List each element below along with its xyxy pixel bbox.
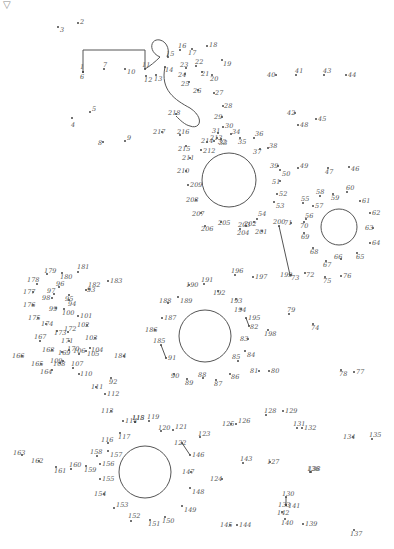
- dot-label: 109: [50, 358, 62, 365]
- dot-label: 160: [69, 462, 81, 469]
- dot-81[interactable]: [258, 370, 260, 372]
- dot-label: 42: [287, 110, 295, 117]
- dot-132[interactable]: [301, 427, 303, 429]
- dot-label: 95: [65, 296, 73, 303]
- dot-77[interactable]: [353, 371, 355, 373]
- dot-45[interactable]: [315, 118, 317, 120]
- dot-49[interactable]: [297, 167, 299, 169]
- dot-label: 153: [116, 502, 128, 509]
- dot-3[interactable]: [57, 26, 59, 28]
- dot-187[interactable]: [161, 317, 163, 319]
- dot-144[interactable]: [236, 524, 238, 526]
- dot-label: 187: [164, 315, 176, 322]
- dot-76[interactable]: [340, 275, 342, 277]
- dot-2[interactable]: [77, 22, 79, 24]
- dot-121[interactable]: [172, 429, 174, 431]
- dot-label: 119: [147, 414, 159, 421]
- dot-label: 88: [198, 372, 206, 379]
- dot-98[interactable]: [51, 297, 53, 299]
- dot-label: 17: [188, 50, 196, 57]
- dot-30[interactable]: [222, 126, 224, 128]
- dot-label: 182: [88, 282, 100, 289]
- dot-4[interactable]: [71, 117, 73, 119]
- dot-label: 54: [258, 211, 266, 218]
- dot-101[interactable]: [77, 315, 79, 317]
- dot-label: 89: [185, 380, 193, 387]
- dot-141[interactable]: [285, 504, 287, 506]
- dot-61[interactable]: [359, 200, 361, 202]
- dot-label: 130: [282, 491, 294, 498]
- dot-181[interactable]: [77, 271, 79, 273]
- dot-label: 146: [192, 452, 204, 459]
- dot-40[interactable]: [275, 74, 277, 76]
- dot-18[interactable]: [206, 45, 208, 47]
- dot-label: 77: [356, 369, 364, 376]
- pre-drawn-circle-middle: [179, 310, 231, 362]
- dot-label: 212: [203, 148, 215, 155]
- dot-209[interactable]: [187, 184, 189, 186]
- dot-9[interactable]: [124, 140, 126, 142]
- dot-label: 113: [101, 408, 113, 415]
- dot-64[interactable]: [369, 242, 371, 244]
- dot-157[interactable]: [107, 450, 109, 452]
- dot-label: 56: [305, 213, 313, 220]
- dot-10[interactable]: [124, 68, 126, 70]
- dot-149[interactable]: [181, 505, 183, 507]
- dot-189[interactable]: [177, 296, 179, 298]
- dot-label: 45: [318, 116, 326, 123]
- dot-44[interactable]: [345, 74, 347, 76]
- dot-label: 18: [209, 42, 217, 49]
- dot-156[interactable]: [99, 463, 101, 465]
- dot-label: 46: [351, 166, 359, 173]
- dot-label: 122: [174, 440, 186, 447]
- dot-148[interactable]: [189, 487, 191, 489]
- dot-label: 85: [232, 354, 240, 361]
- dot-label: 148: [192, 489, 204, 496]
- dot-46[interactable]: [348, 166, 350, 168]
- dot-129[interactable]: [282, 410, 284, 412]
- dot-50[interactable]: [279, 169, 281, 171]
- dot-label: 184: [114, 353, 126, 360]
- dot-146[interactable]: [189, 454, 191, 456]
- dot-112[interactable]: [104, 393, 106, 395]
- dot-54[interactable]: [256, 218, 258, 220]
- dot-label: 118: [132, 415, 144, 422]
- dot-5[interactable]: [89, 111, 91, 113]
- dot-84[interactable]: [244, 350, 246, 352]
- dot-label: 127: [267, 459, 279, 466]
- dot-153[interactable]: [113, 507, 115, 509]
- dot-label: 186: [145, 327, 157, 334]
- dot-label: 181: [77, 264, 89, 271]
- dot-152[interactable]: [130, 520, 132, 522]
- dot-label: 16: [178, 43, 186, 50]
- dot-label: 157: [110, 452, 122, 459]
- dot-53[interactable]: [273, 201, 275, 203]
- dot-label: 3: [60, 27, 64, 34]
- dot-label: 210: [177, 168, 189, 175]
- dot-139[interactable]: [302, 523, 304, 525]
- dot-183[interactable]: [107, 280, 109, 282]
- dot-155[interactable]: [99, 478, 101, 480]
- dot-52[interactable]: [276, 193, 278, 195]
- dot-195[interactable]: [245, 317, 247, 319]
- dot-57[interactable]: [312, 205, 314, 207]
- dot-48[interactable]: [297, 124, 299, 126]
- dot-label: 198: [264, 331, 276, 338]
- dot-label: 40: [267, 72, 275, 79]
- dot-label: 189: [180, 298, 192, 305]
- pre-drawn-line-200-199: [279, 226, 290, 275]
- dot-label: 168: [42, 347, 54, 354]
- dot-label: 1: [80, 64, 84, 71]
- dot-126[interactable]: [235, 423, 237, 425]
- dot-91[interactable]: [165, 357, 167, 359]
- dot-212[interactable]: [200, 149, 202, 151]
- dot-80[interactable]: [268, 370, 270, 372]
- dot-197[interactable]: [252, 276, 254, 278]
- dot-8[interactable]: [102, 141, 104, 143]
- dot-62[interactable]: [369, 212, 371, 214]
- dot-label: 102: [77, 322, 89, 329]
- dot-label: 192: [213, 290, 225, 297]
- dot-label: 167: [34, 334, 46, 341]
- dot-114[interactable]: [122, 420, 124, 422]
- dot-label: 90: [171, 373, 179, 380]
